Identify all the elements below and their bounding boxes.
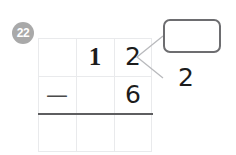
subtrahend-ones-digit: 6 [114, 76, 152, 114]
arithmetic-grid: 1 2 — 6 [38, 38, 152, 152]
minus-sign-glyph: — [38, 76, 76, 114]
problem-number-badge: 22 [12, 22, 34, 44]
minuend-ones-value: 2 [114, 38, 152, 76]
answer-input-box[interactable] [163, 19, 221, 53]
minuend-ones-digit: 2 [114, 38, 152, 76]
worksheet-problem: 22 1 2 — 6 2 [0, 0, 236, 155]
ones-digit-annotation: 2 [171, 63, 201, 93]
grid-horizontal-line [38, 151, 152, 152]
subtrahend-ones-value: 6 [114, 76, 152, 114]
minus-sign: — [38, 76, 76, 114]
minuend-tens-digit: 1 [76, 38, 114, 76]
minuend-tens-value: 1 [76, 38, 114, 76]
